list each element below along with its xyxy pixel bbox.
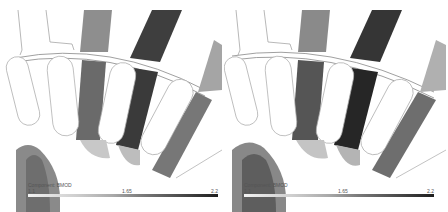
- legend-color-bar: [28, 194, 218, 197]
- fea-plot-left: Component: BMOD 1.1 1.65 2.2: [0, 0, 224, 212]
- field-plot-graphic: [224, 0, 448, 212]
- color-legend: Component: BMOD 1.1 1.65 2.2: [244, 182, 434, 202]
- legend-color-bar: [244, 194, 434, 197]
- color-legend: Component: BMOD 1.1 1.65 2.2: [28, 182, 218, 202]
- field-plot-graphic: [0, 0, 224, 212]
- fea-plot-right: Component: BMOD 1.1 1.65 2.2: [224, 0, 448, 212]
